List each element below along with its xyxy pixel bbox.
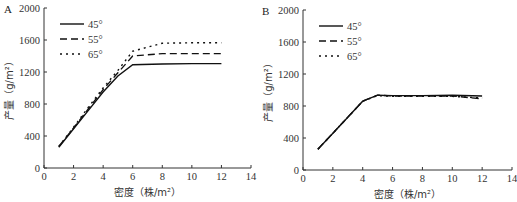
chart-panel-a: 040080012001600200002468101214A密度（株/m²）产…: [3, 3, 257, 199]
chart-panel-b: 040080012001600200002468101214B密度（株/m²）产…: [262, 5, 517, 201]
x-tick-label: 8: [160, 171, 165, 182]
y-tick-label: 400: [283, 133, 299, 144]
series-line-dotted: [318, 96, 482, 150]
chart-canvas: 040080012001600200002468101214A密度（株/m²）产…: [0, 0, 517, 202]
x-axis-label: 密度（株/m²）: [374, 188, 441, 200]
x-tick-label: 6: [130, 171, 135, 182]
y-tick-label: 1600: [19, 35, 40, 46]
y-tick-label: 800: [24, 99, 40, 110]
y-axis-label: 产量（g/m²）: [3, 56, 15, 119]
legend-label: 65°: [347, 51, 362, 62]
x-tick-label: 10: [447, 173, 458, 184]
legend-label: 45°: [347, 21, 362, 32]
x-tick-label: 4: [101, 171, 107, 182]
x-tick-label: 2: [330, 173, 335, 184]
x-tick-label: 4: [360, 173, 366, 184]
x-tick-label: 12: [477, 173, 488, 184]
series-line-dashed: [59, 54, 222, 147]
y-tick-label: 2000: [278, 5, 299, 16]
x-tick-label: 14: [246, 171, 257, 182]
panel-label: B: [262, 5, 269, 17]
y-tick-label: 400: [24, 131, 40, 142]
x-tick-label: 0: [41, 171, 46, 182]
x-tick-label: 12: [216, 171, 227, 182]
x-tick-label: 8: [420, 173, 425, 184]
y-tick-label: 0: [294, 165, 299, 176]
x-tick-label: 2: [71, 171, 76, 182]
x-tick-label: 10: [187, 171, 198, 182]
x-tick-label: 14: [507, 173, 517, 184]
legend-label: 45°: [88, 19, 103, 30]
x-axis-label: 密度（株/m²）: [114, 186, 181, 198]
series-line-solid: [59, 64, 222, 148]
legend-label: 55°: [347, 36, 362, 47]
x-tick-label: 0: [300, 173, 305, 184]
series-line-dotted: [59, 43, 222, 147]
x-tick-label: 6: [390, 173, 395, 184]
y-tick-label: 1200: [19, 67, 40, 78]
y-tick-label: 800: [283, 101, 299, 112]
y-axis-label: 产量（g/m²）: [262, 58, 274, 121]
y-tick-label: 1600: [278, 37, 299, 48]
legend-label: 65°: [88, 49, 103, 60]
legend-label: 55°: [88, 34, 103, 45]
y-tick-label: 0: [35, 163, 40, 174]
y-tick-label: 1200: [278, 69, 299, 80]
y-tick-label: 2000: [19, 3, 40, 14]
panel-label: A: [4, 3, 12, 15]
